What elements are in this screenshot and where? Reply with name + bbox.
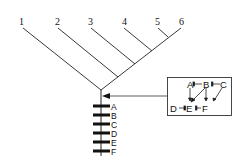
branch-5 — [158, 28, 168, 37]
phylogeny-diagram: 1 2 3 4 5 6 A B C D E F — [0, 0, 243, 160]
locus-bar-d — [93, 132, 110, 135]
tip-label-1: 1 — [19, 16, 24, 27]
locus-bar-f — [93, 150, 110, 153]
chromosome: A B C D E F — [93, 90, 117, 157]
node-d: D — [170, 103, 177, 114]
tip-labels: 1 2 3 4 5 6 — [19, 16, 184, 27]
node-e: E — [186, 103, 192, 114]
inhibit-bar-icon — [212, 82, 213, 86]
branch-2 — [58, 28, 118, 77]
locus-bar-e — [93, 141, 110, 144]
arrowhead-icon — [102, 93, 110, 99]
tip-label-6: 6 — [179, 16, 184, 27]
inhibit-bar-icon — [196, 106, 197, 110]
locus-bar-c — [93, 123, 110, 126]
tip-label-5: 5 — [155, 16, 160, 27]
node-f: F — [202, 103, 208, 114]
node-a: A — [187, 79, 194, 90]
tree-branches — [23, 28, 181, 90]
node-b: B — [203, 79, 209, 90]
locus-bar-b — [93, 114, 110, 117]
branch-3 — [91, 28, 135, 64]
pointer-arrow — [102, 93, 167, 99]
node-c: C — [220, 79, 227, 90]
network-box: A B C D E F — [168, 78, 232, 116]
locus-label-f: F — [111, 147, 116, 157]
locus-bar-a — [93, 105, 110, 108]
tip-label-4: 4 — [122, 16, 127, 27]
tip-label-2: 2 — [55, 16, 60, 27]
branch-4 — [124, 28, 152, 51]
branch-1 — [23, 28, 101, 90]
tip-label-3: 3 — [88, 16, 93, 27]
